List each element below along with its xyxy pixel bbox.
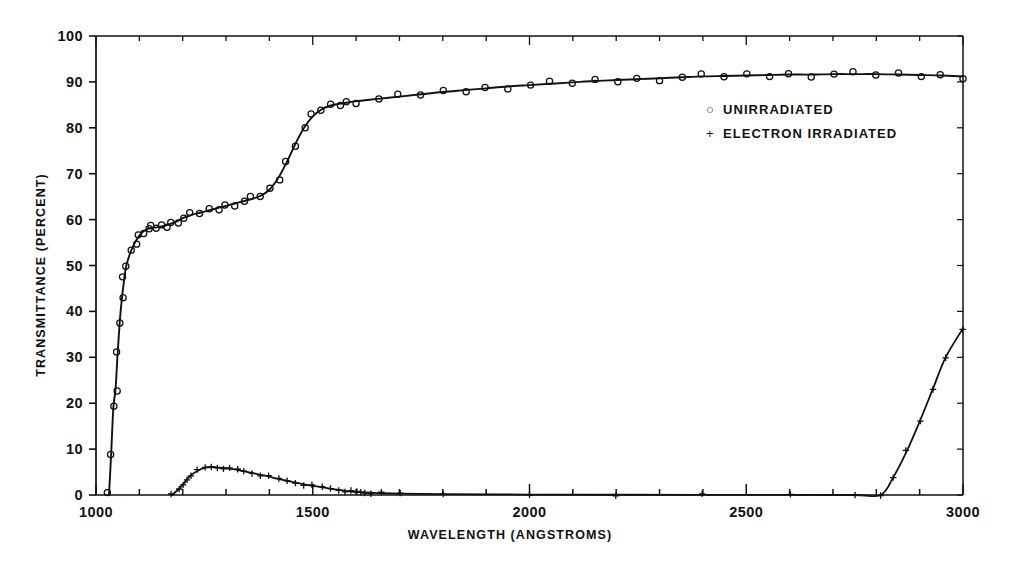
circle-open-marker-icon: ○ — [706, 103, 723, 116]
data-point-marker — [526, 492, 532, 498]
data-point-marker — [249, 470, 255, 476]
data-point-marker — [308, 111, 314, 117]
data-point-marker — [699, 491, 705, 497]
y-axis-title: TRANSMITTANCE (PERCENT) — [34, 130, 48, 420]
data-point-marker — [368, 491, 374, 497]
x-axis-title: WAVELENGTH (ANGSTROMS) — [0, 528, 1020, 542]
y-axis-title-container: TRANSMITTANCE (PERCENT) — [0, 0, 34, 576]
x-tick-label-2000: 2000 — [513, 504, 547, 520]
data-point-marker — [852, 492, 858, 498]
series-line — [172, 328, 963, 496]
data-point-marker — [214, 465, 220, 471]
data-point-marker — [319, 484, 325, 490]
data-point-marker — [241, 468, 247, 474]
y-tick-label-90: 90 — [66, 74, 83, 90]
data-point-marker — [276, 475, 282, 481]
transmittance-chart-figure: 0102030405060708090100100015002000250030… — [0, 0, 1020, 576]
series-electron-irradiated — [168, 326, 966, 499]
data-point-marker — [348, 487, 354, 493]
data-point-marker — [284, 478, 290, 484]
y-tick-label-20: 20 — [66, 395, 83, 411]
x-tick-label-1000: 1000 — [79, 504, 113, 520]
x-tick-label-3000: 3000 — [946, 504, 980, 520]
plus-marker-icon: + — [706, 127, 723, 140]
y-tick-label-100: 100 — [58, 28, 83, 44]
legend-label-electron-irradiated: ELECTRON IRRADIATED — [723, 126, 897, 141]
plot-canvas: 0102030405060708090100100015002000250030… — [0, 0, 1020, 576]
data-point-marker — [113, 349, 119, 355]
legend-entry-electron-irradiated: + ELECTRON IRRADIATED — [706, 121, 897, 145]
data-point-marker — [336, 487, 342, 493]
data-point-marker — [168, 491, 174, 497]
y-tick-label-10: 10 — [66, 441, 83, 457]
data-point-marker — [787, 491, 793, 497]
legend-entry-unirradiated: ○ UNIRRADIATED — [706, 97, 897, 121]
y-tick-label-50: 50 — [66, 258, 83, 274]
chart-legend: ○ UNIRRADIATED + ELECTRON IRRADIATED — [706, 97, 897, 145]
data-point-marker — [309, 482, 315, 488]
data-point-marker — [226, 465, 232, 471]
x-tick-label-2500: 2500 — [729, 504, 763, 520]
data-point-marker — [613, 493, 619, 499]
data-point-marker — [202, 464, 208, 470]
y-tick-label-0: 0 — [75, 487, 83, 503]
y-tick-label-80: 80 — [66, 120, 83, 136]
data-point-marker — [440, 491, 446, 497]
y-tick-label-60: 60 — [66, 212, 83, 228]
data-point-marker — [234, 466, 240, 472]
data-point-marker — [354, 488, 360, 494]
data-point-marker — [208, 464, 214, 470]
y-tick-label-40: 40 — [66, 303, 83, 319]
legend-label-unirradiated: UNIRRADIATED — [723, 102, 834, 117]
y-tick-label-70: 70 — [66, 166, 83, 182]
data-point-marker — [220, 466, 226, 472]
y-tick-label-30: 30 — [66, 349, 83, 365]
data-point-marker — [292, 480, 298, 486]
x-tick-label-1500: 1500 — [296, 504, 330, 520]
data-point-marker — [327, 485, 333, 491]
